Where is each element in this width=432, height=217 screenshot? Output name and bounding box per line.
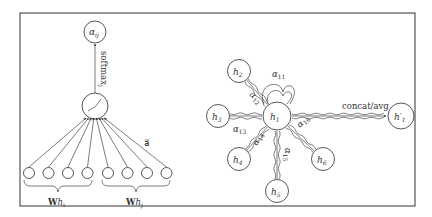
wh-i-label: Whi [47, 197, 65, 208]
alpha-label-13: α13 [233, 124, 247, 135]
input-edge [96, 118, 108, 167]
alpha-label-15: α15 [282, 148, 293, 162]
concat-avg-label: concat/avg [342, 101, 389, 111]
input-node [103, 168, 114, 179]
concat-avg-edge-strand [292, 113, 384, 115]
attention-vector-label: a⃗ [144, 138, 150, 148]
input-node [142, 168, 153, 179]
gat-diagram: αij softmaxj a⃗ Whi Whj concat/avg h1 h2… [0, 0, 432, 217]
input-edge [68, 118, 91, 167]
attention-edge-h5 [274, 131, 276, 179]
input-node [82, 168, 93, 179]
input-node [24, 168, 35, 179]
input-edge [102, 118, 147, 167]
attention-mechanism-node [82, 93, 108, 119]
attention-edge-h3 [230, 113, 262, 115]
wh-j-label: Whj [125, 197, 143, 209]
attention-edge-h3 [230, 117, 262, 119]
alpha-label-11: α11 [272, 69, 285, 80]
softmax-label: softmaxj [97, 51, 109, 87]
input-node [43, 168, 54, 179]
input-edge [29, 118, 86, 167]
alpha-label-16: α16 [294, 113, 311, 130]
input-node [161, 168, 172, 179]
brace-left [24, 180, 92, 192]
input-edge [88, 118, 94, 167]
left-panel: αij softmaxj a⃗ Whi Whj [24, 21, 173, 209]
input-edge [49, 118, 89, 167]
input-node [122, 168, 133, 179]
attention-edge-h6 [289, 125, 316, 149]
attention-edge-h5 [278, 131, 280, 179]
input-node [63, 168, 74, 179]
right-panel: concat/avg h1 h2h3h4h5h6 α11α12α13α14α15… [207, 60, 415, 203]
brace-right [102, 180, 170, 192]
